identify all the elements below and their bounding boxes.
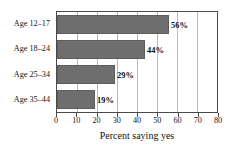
bar-value-label: 44% (147, 45, 164, 54)
bar-chart: Age 12–17 Age 18–24 Age 25–34 Age 35–44 … (0, 0, 230, 153)
category-label-row: Age 35–44 (0, 88, 54, 114)
category-label: Age 35–44 (14, 96, 50, 104)
category-label-row: Age 25–34 (0, 62, 54, 88)
x-axis-tick-label: 60 (173, 117, 181, 125)
category-axis: Age 12–17 Age 18–24 Age 25–34 Age 35–44 (0, 11, 54, 113)
category-label: Age 12–17 (14, 20, 50, 28)
x-axis-tick-label: 50 (153, 117, 161, 125)
x-axis-tick-label: 30 (113, 117, 121, 125)
x-axis-tick-label: 70 (194, 117, 202, 125)
x-axis-tick-label: 80 (214, 117, 222, 125)
bar-value-label: 19% (97, 95, 114, 104)
plot-area: 56% 44% 29% 19% (56, 11, 218, 113)
x-axis-title: Percent saying yes (56, 131, 218, 141)
x-axis-tick-label: 20 (92, 117, 100, 125)
x-axis-tick-label: 10 (72, 117, 80, 125)
category-label: Age 18–24 (14, 45, 50, 53)
category-label-row: Age 18–24 (0, 37, 54, 63)
bar: 19% (57, 90, 95, 109)
bar: 44% (57, 40, 145, 59)
bar-value-label: 56% (171, 20, 188, 29)
x-axis-tick-label: 40 (133, 117, 141, 125)
category-label-row: Age 12–17 (0, 11, 54, 37)
category-label: Age 25–34 (14, 71, 50, 79)
bars-layer: 56% 44% 29% 19% (57, 12, 217, 112)
bar-row: 56% (57, 12, 217, 37)
bar-row: 19% (57, 87, 217, 112)
bar-value-label: 29% (117, 70, 134, 79)
bar-row: 44% (57, 37, 217, 62)
x-axis-tick-labels: 01020304050607080 (56, 117, 218, 128)
bar-row: 29% (57, 62, 217, 87)
x-axis-tick-label: 0 (54, 117, 58, 125)
bar: 29% (57, 65, 115, 84)
bar: 56% (57, 15, 169, 34)
